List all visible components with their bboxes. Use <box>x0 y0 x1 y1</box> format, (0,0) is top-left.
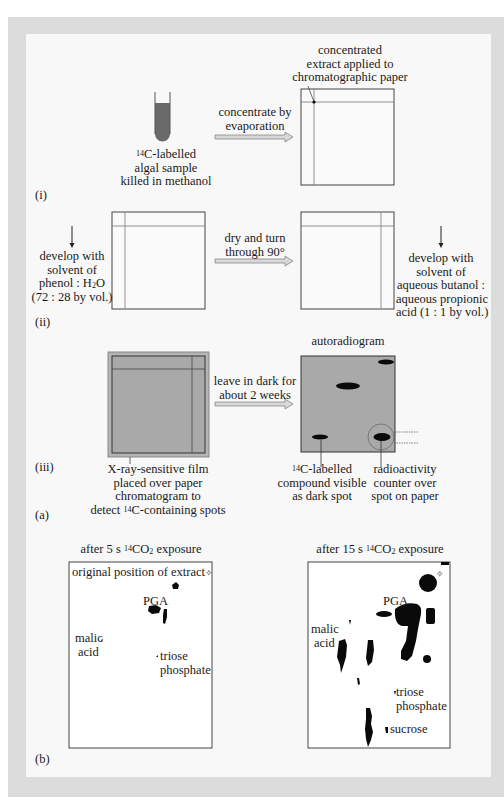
chromatography-paper-ii-left <box>112 212 205 309</box>
spot-caption: 14C-labelled compound visible as dark sp… <box>272 463 372 504</box>
spot-label-pga: PGA <box>143 595 168 609</box>
chromatogram-15s <box>308 562 450 748</box>
counter-caption: radioactivity counter over spot on paper <box>360 463 450 504</box>
panel-label-b: (b) <box>35 752 50 767</box>
arrow-label-ii: dry and turn through 90° <box>210 232 300 259</box>
dark-spot <box>378 360 394 365</box>
solvent-caption-left: develop with solvent of phenol : H2O (72… <box>30 250 114 304</box>
spot-label-malic-acid: malic acid <box>311 623 339 650</box>
test-tube-icon <box>155 92 170 142</box>
arrow-icon <box>215 132 293 142</box>
xray-film <box>108 352 209 464</box>
title-5s: after 5 s 14CO2 exposure <box>70 543 212 557</box>
step-label-ii: (ii) <box>35 315 50 330</box>
origin-marker-icon: ✧ <box>436 568 444 582</box>
spot-label-triose-phosphate: triose phosphate <box>396 686 447 713</box>
title-15s: after 15 s 14CO2 exposure <box>300 543 460 557</box>
origin-label: original position of extract✧ <box>72 566 213 581</box>
spot-label-sucrose: sucrose <box>390 723 428 737</box>
arrow-label-i: concentrate by evaporation <box>210 106 300 133</box>
dark-spot <box>374 433 391 441</box>
spot-label-malic-acid: malic acid <box>75 632 103 659</box>
chromatography-paper-ii-right <box>301 212 394 309</box>
step-label-i: (i) <box>35 188 47 203</box>
spot-label-pga: PGA <box>383 595 408 609</box>
dark-spot <box>336 383 360 390</box>
solvent-caption-right: develop with solvent of aqueous butanol … <box>396 252 486 320</box>
autoradiogram <box>301 356 418 467</box>
origin-marker-icon: ✧ <box>205 568 213 578</box>
dark-spot <box>312 435 328 440</box>
paper-caption-i: concentrated extract applied to chromato… <box>290 44 410 85</box>
autoradiogram-title: autoradiogram <box>300 335 396 349</box>
film-caption: X-ray-sensitive film placed over paper c… <box>90 463 226 517</box>
chromatography-paper-i <box>301 86 394 185</box>
tube-caption: 14C-labelled algal sample killed in meth… <box>118 148 214 189</box>
spot-label-triose-phosphate: triose phosphate <box>160 650 211 677</box>
arrow-label-iii: leave in dark for about 2 weeks <box>208 375 302 402</box>
down-arrow-icon <box>439 226 444 248</box>
panel-label-a: (a) <box>35 508 49 523</box>
down-arrow-icon <box>70 226 75 248</box>
step-label-iii: (iii) <box>35 460 54 475</box>
